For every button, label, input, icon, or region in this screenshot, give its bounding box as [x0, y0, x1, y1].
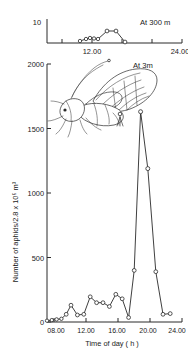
data-point	[88, 36, 91, 39]
upper-panel: 10 At 300 m 12.00 24.00	[33, 18, 188, 56]
ytick-label-1000: 1000	[28, 189, 44, 198]
data-point	[161, 312, 165, 316]
data-point	[50, 318, 53, 321]
data-point	[60, 317, 63, 320]
data-point	[123, 40, 127, 44]
data-point	[96, 37, 99, 40]
ytick-label-500: 500	[32, 254, 44, 263]
lower-data-line	[47, 112, 170, 321]
data-point	[45, 319, 48, 322]
ytick-label-1500: 1500	[28, 125, 44, 134]
data-point	[55, 318, 58, 321]
data-point	[146, 167, 150, 171]
data-point	[114, 292, 118, 296]
data-point	[76, 313, 80, 317]
data-point	[64, 312, 68, 316]
ytick-label-0: 0	[40, 318, 44, 327]
xtick-label-1200: 12.00	[77, 327, 95, 334]
data-point	[127, 316, 131, 320]
upper-panel-label: At 300 m	[140, 18, 170, 27]
ytick-label-2000: 2000	[28, 60, 44, 69]
data-point	[69, 303, 73, 307]
data-point	[168, 312, 172, 316]
xtick-label-2400: 24.00	[168, 327, 186, 334]
winged-aphid-drawing	[48, 59, 157, 137]
data-point	[108, 305, 112, 309]
data-point	[120, 297, 124, 301]
xtick-label-1600: 16.00	[108, 327, 126, 334]
lower-xticks	[54, 318, 182, 322]
x-axis-title: Time of day ( h )	[85, 339, 139, 348]
upper-ytick-label-10: 10	[33, 18, 41, 27]
data-point	[92, 37, 95, 40]
data-point	[114, 29, 118, 33]
data-point	[78, 39, 81, 42]
data-point-peak	[139, 110, 143, 114]
lower-data-markers	[45, 110, 172, 323]
data-point	[82, 312, 86, 316]
upper-data-markers	[78, 29, 127, 44]
xtick-label-0800: 08.00	[47, 327, 65, 334]
y-axis-title: Number of aphids/2.8 x 10⁵ m³	[11, 181, 20, 282]
data-point	[101, 301, 105, 305]
eye	[63, 108, 66, 111]
data-point	[95, 301, 99, 305]
figure-container: 10 At 300 m 12.00 24.00 At 3m	[0, 0, 188, 358]
data-point	[84, 37, 87, 40]
antenna-tip	[108, 59, 111, 62]
data-point	[154, 270, 158, 274]
upper-xtick-label-1200: 12.00	[83, 47, 102, 56]
data-point	[88, 295, 92, 299]
data-point	[105, 29, 109, 33]
lower-yticks	[47, 64, 51, 322]
upper-xtick-label-2400: 24.00	[171, 47, 188, 56]
xtick-label-2000: 20.00	[139, 327, 157, 334]
data-point	[132, 269, 136, 273]
